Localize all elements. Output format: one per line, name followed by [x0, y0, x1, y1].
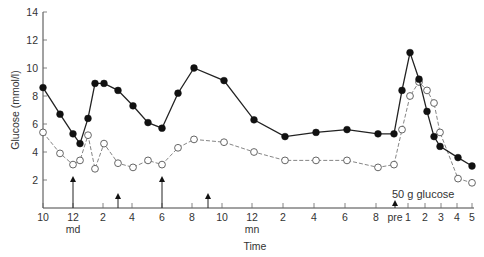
filled-circle-marker: [407, 49, 414, 56]
open-circle-marker: [391, 161, 398, 168]
open-circle-marker: [469, 179, 476, 186]
open-circle-marker: [313, 157, 320, 164]
x-axis-title: Time: [244, 240, 267, 252]
open-circle-marker: [344, 157, 351, 164]
arrow-head-icon: [115, 193, 121, 199]
x-tick-label: 12: [67, 211, 79, 223]
x-tick-label: 8: [373, 211, 379, 223]
x-tick-label: 12: [246, 211, 258, 223]
filled-circle-marker: [221, 77, 228, 84]
x-tick-label: 10: [216, 211, 228, 223]
y-tick-label: 8: [32, 90, 38, 102]
filled-circle-marker: [455, 154, 462, 161]
filled-circle-marker: [313, 129, 320, 136]
x-tick-label: 8: [189, 211, 195, 223]
x-tick-label: 6: [159, 211, 165, 223]
open-circle-marker: [221, 139, 228, 146]
open-circle-marker: [455, 175, 462, 182]
open-circle-marker: [175, 144, 182, 151]
open-circle-marker: [77, 157, 84, 164]
open-circle-marker: [431, 100, 438, 107]
open-circle-marker: [115, 160, 122, 167]
filled-circle-marker: [424, 108, 431, 115]
y-tick-label: 12: [26, 34, 38, 46]
y-tick-label: 14: [26, 6, 38, 18]
filled-circle-marker: [191, 65, 198, 72]
x-tick-label: 4: [454, 211, 460, 223]
filled-circle-marker: [77, 140, 84, 147]
filled-circle-marker: [92, 80, 99, 87]
filled-circle-marker: [85, 115, 92, 122]
open-circle-marker: [159, 161, 166, 168]
filled-circle-marker: [130, 102, 137, 109]
series-open-circles: [40, 79, 476, 187]
x-tick-label: 5: [469, 211, 475, 223]
y-tick-label: 6: [32, 118, 38, 130]
open-circle-marker: [85, 132, 92, 139]
arrow-head-icon: [159, 176, 165, 182]
open-circle-marker: [191, 136, 198, 143]
x-tick-label: 3: [438, 211, 444, 223]
x-tick-label: pre: [387, 211, 402, 223]
x-tick-label: 2: [422, 211, 428, 223]
x-tick-sublabel: md: [66, 223, 81, 235]
open-circle-marker: [375, 164, 382, 171]
filled-circle-marker: [40, 84, 47, 91]
x-tick-label: 2: [100, 211, 106, 223]
arrow-head-icon: [70, 176, 76, 182]
filled-circle-marker: [70, 130, 77, 137]
filled-circle-marker: [101, 80, 108, 87]
filled-circle-marker: [469, 163, 476, 170]
open-circle-marker: [101, 140, 108, 147]
filled-circle-marker: [416, 76, 423, 83]
open-circle-marker: [399, 126, 406, 133]
arrow-head-icon: [205, 193, 211, 199]
filled-circle-marker: [431, 133, 438, 140]
glucose-chart: 24681012141012md24681012mn2468pre12345 G…: [0, 0, 484, 257]
filled-circle-marker: [57, 111, 64, 118]
y-tick-label: 4: [32, 146, 38, 158]
glucose-dose-annotation: 50 g glucose: [392, 188, 454, 200]
open-circle-marker: [40, 129, 47, 136]
x-tick-label: 4: [311, 211, 317, 223]
open-circle-marker: [437, 129, 444, 136]
open-circle-marker: [92, 165, 99, 172]
arrow-head-icon: [392, 200, 398, 206]
x-tick-sublabel: mn: [245, 223, 260, 235]
meal-arrows: [70, 176, 398, 208]
filled-circle-marker: [391, 130, 398, 137]
open-circle-marker: [424, 87, 431, 94]
open-circle-marker: [130, 164, 137, 171]
filled-circle-marker: [175, 90, 182, 97]
x-tick-label: 1: [405, 211, 411, 223]
open-circle-marker: [70, 161, 77, 168]
filled-circle-marker: [375, 130, 382, 137]
filled-circle-marker: [282, 133, 289, 140]
filled-circle-marker: [437, 143, 444, 150]
x-tick-label: 10: [37, 211, 49, 223]
y-axis-title: Glucose (mmol/l): [9, 70, 21, 149]
x-tick-label: 4: [129, 211, 135, 223]
open-circle-marker: [251, 149, 258, 156]
open-circle-marker: [407, 93, 414, 100]
filled-circle-marker: [159, 125, 166, 132]
x-tick-label: 6: [342, 211, 348, 223]
x-tick-label: 2: [280, 211, 286, 223]
filled-circle-marker: [145, 119, 152, 126]
y-tick-label: 10: [26, 62, 38, 74]
filled-circle-marker: [115, 87, 122, 94]
open-circle-marker: [282, 157, 289, 164]
open-circle-marker: [145, 157, 152, 164]
y-tick-label: 2: [32, 174, 38, 186]
open-circle-marker: [57, 150, 64, 157]
filled-circle-marker: [399, 87, 406, 94]
filled-circle-marker: [344, 126, 351, 133]
filled-circle-marker: [251, 116, 258, 123]
